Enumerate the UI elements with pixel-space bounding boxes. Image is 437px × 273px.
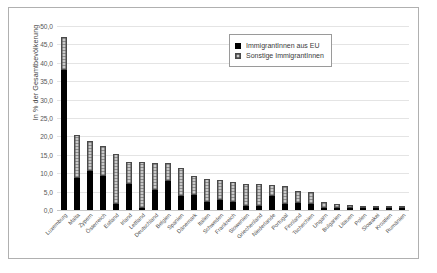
bar-stack[interactable] [74, 135, 80, 210]
bar-stack[interactable] [87, 141, 93, 210]
y-tick-label: 30,0 [40, 96, 53, 103]
x-label-column: Deutschland [148, 210, 161, 266]
bar-segment-other [191, 176, 197, 195]
x-label-column: Rumänien [396, 210, 409, 266]
bar-stack[interactable] [269, 185, 275, 210]
bar-column[interactable] [344, 26, 357, 210]
x-label-column: Portugal [279, 210, 292, 266]
bar-segment-other [217, 180, 223, 200]
bar-stack[interactable] [217, 180, 223, 210]
x-label-column: Kroatien [383, 210, 396, 266]
bar-column[interactable] [383, 26, 396, 210]
bar-segment-eu [269, 196, 275, 210]
legend-label-other: Sonstige ImmigrantInnen [246, 52, 324, 59]
x-label-column: Bulgarien [331, 210, 344, 266]
bar-stack[interactable] [152, 163, 158, 210]
bar-segment-eu [126, 184, 132, 210]
legend-item-eu[interactable]: ImmigrantInnen aus EU [235, 42, 324, 49]
x-axis-labels: LuxemburgMaltaZypernÖsterreichEstlandIrl… [57, 210, 409, 266]
bar-stack[interactable] [295, 191, 301, 210]
bar-stack[interactable] [126, 162, 132, 210]
bar-stack[interactable] [256, 184, 262, 210]
bar-segment-other [139, 162, 145, 208]
x-label-column: Litauen [344, 210, 357, 266]
bar-column[interactable] [96, 26, 109, 210]
x-label-column: Irland [122, 210, 135, 266]
bar-segment-other [152, 163, 158, 190]
x-label-column: Polen [357, 210, 370, 266]
bar-segment-other [256, 184, 262, 206]
bar-stack[interactable] [230, 182, 236, 210]
bar-column[interactable] [135, 26, 148, 210]
bar-segment-other [204, 179, 210, 202]
legend-swatch-eu-icon [235, 43, 241, 49]
bar-stack[interactable] [191, 176, 197, 210]
y-tick-label: 45,0 [40, 41, 53, 48]
bar-stack[interactable] [165, 163, 171, 210]
x-label-column: Griechenland [252, 210, 265, 266]
legend-label-eu: ImmigrantInnen aus EU [246, 42, 320, 49]
bar-column[interactable] [200, 26, 213, 210]
y-tick-label: 40,0 [40, 59, 53, 66]
bar-segment-other [113, 154, 119, 204]
bar-segment-other [243, 184, 249, 207]
bar-segment-eu [178, 196, 184, 210]
bar-column[interactable] [57, 26, 70, 210]
bar-segment-eu [295, 203, 301, 210]
x-label-column: Österreich [96, 210, 109, 266]
bar-segment-other [308, 192, 314, 203]
legend-swatch-other-icon [235, 53, 241, 59]
x-tick-label: Luxemburg [44, 212, 68, 236]
y-tick-label: 20,0 [40, 133, 53, 140]
bar-column[interactable] [161, 26, 174, 210]
bar-segment-eu [191, 195, 197, 210]
bar-column[interactable] [396, 26, 409, 210]
bar-stack[interactable] [204, 179, 210, 210]
bar-column[interactable] [83, 26, 96, 210]
x-label-column: Tschechien [305, 210, 318, 266]
x-label-column: Dänemark [187, 210, 200, 266]
bar-column[interactable] [331, 26, 344, 210]
bar-stack[interactable] [282, 186, 288, 210]
y-tick-label: 35,0 [40, 78, 53, 85]
bar-stack[interactable] [139, 162, 145, 210]
bar-segment-other [165, 163, 171, 181]
bar-column[interactable] [174, 26, 187, 210]
bar-column[interactable] [109, 26, 122, 210]
bar-segment-eu [204, 202, 210, 210]
bar-stack[interactable] [100, 146, 106, 210]
legend-item-other[interactable]: Sonstige ImmigrantInnen [235, 52, 324, 59]
bar-column[interactable] [122, 26, 135, 210]
bar-stack[interactable] [308, 192, 314, 210]
x-label-column: Zypern [83, 210, 96, 266]
bar-segment-eu [165, 181, 171, 210]
bar-segment-other [61, 37, 67, 70]
y-tick-label: 50,0 [40, 23, 53, 30]
bar-segment-other [282, 186, 288, 205]
bar-column[interactable] [148, 26, 161, 210]
bar-column[interactable] [357, 26, 370, 210]
bar-column[interactable] [370, 26, 383, 210]
x-label-column: Estland [109, 210, 122, 266]
bar-stack[interactable] [178, 168, 184, 210]
bar-segment-other [269, 185, 275, 196]
y-tick-label: 10,0 [40, 170, 53, 177]
chart-legend: ImmigrantInnen aus EU Sonstige Immigrant… [229, 34, 332, 67]
bar-segment-eu [230, 202, 236, 210]
x-label-column: Italien [200, 210, 213, 266]
bar-segment-other [87, 141, 93, 172]
chart-frame: In % der Gesamtbevölkerung 50,045,040,03… [8, 7, 419, 259]
bar-segment-eu [217, 200, 223, 210]
bar-stack[interactable] [243, 184, 249, 210]
bar-segment-other [295, 191, 301, 203]
bar-column[interactable] [213, 26, 226, 210]
bar-stack[interactable] [61, 37, 67, 210]
y-tick-label: 5,0 [44, 188, 53, 195]
bar-segment-other [100, 146, 106, 177]
bar-segment-eu [61, 70, 67, 210]
bar-stack[interactable] [321, 202, 327, 210]
bar-column[interactable] [187, 26, 200, 210]
bar-stack[interactable] [113, 154, 119, 210]
x-label-column: Luxemburg [57, 210, 70, 266]
bar-column[interactable] [70, 26, 83, 210]
